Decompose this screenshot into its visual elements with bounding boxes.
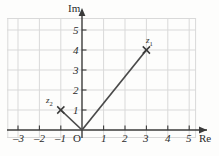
- imaginary-axis-title: Im: [68, 3, 80, 14]
- real-axis-title: Re: [199, 133, 211, 144]
- x-tick-label-3: 3: [143, 133, 149, 144]
- y-tick-label-4: 4: [73, 45, 79, 56]
- x-tick-label-minus1: –1: [55, 133, 66, 144]
- point-label-z1-subscript: 1: [150, 40, 153, 47]
- origin-label: O: [73, 133, 81, 144]
- x-tick-label-2: 2: [122, 133, 128, 144]
- y-tick-label-1: 1: [73, 105, 79, 116]
- x-tick-label-minus3: –3: [13, 133, 24, 144]
- point-label-z2-subscript: 2: [50, 100, 53, 107]
- x-tick-label-4: 4: [165, 133, 171, 144]
- x-tick-label-minus2: –2: [34, 133, 45, 144]
- y-tick-label-3: 3: [73, 65, 79, 76]
- x-tick-label-1: 1: [101, 133, 107, 144]
- x-tick-label-5: 5: [186, 133, 192, 144]
- y-tick-label-2: 2: [73, 85, 79, 96]
- y-tick-label-5: 5: [73, 25, 79, 36]
- point-label-z2: z2: [46, 96, 53, 107]
- point-label-z1: z1: [146, 36, 153, 47]
- argand-diagram-figure: Im Re O –3 –2 –1 1 2 3 4 5 1 2 3 4 5 z1 …: [0, 0, 219, 156]
